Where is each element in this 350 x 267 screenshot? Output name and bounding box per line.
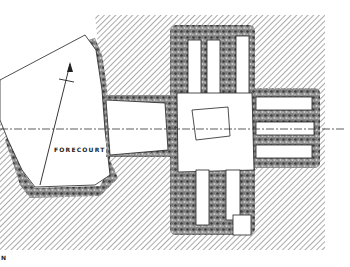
north-label: N [1,254,6,261]
east-cell-2 [256,122,314,135]
forecourt-label: FORECOURT [54,146,106,153]
north-cell-2 [207,40,220,95]
south-cell-1 [196,170,209,225]
north-cell-1 [188,40,201,95]
south-cell-3 [233,215,251,235]
east-cell-3 [256,145,312,158]
tomb-plan [0,0,350,267]
inner-slab [192,107,230,140]
north-cell-3 [236,36,249,96]
passage [106,100,168,155]
east-cell-1 [256,97,312,110]
south-cell-2 [226,170,240,220]
